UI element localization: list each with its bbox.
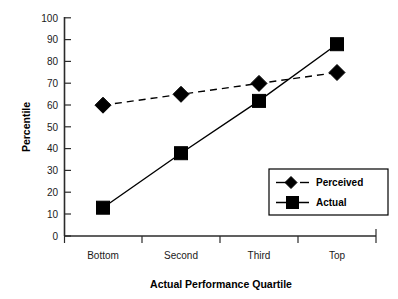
y-tick-label: 20 xyxy=(47,187,59,198)
x-tick-label-third: Third xyxy=(248,250,271,261)
data-point-actual-bottom xyxy=(97,201,110,214)
y-tick-label: 100 xyxy=(41,13,58,24)
y-tick-label: 60 xyxy=(47,100,59,111)
x-tick-label-second: Second xyxy=(164,250,198,261)
y-tick-label: 70 xyxy=(47,78,59,89)
y-tick-label: 90 xyxy=(47,34,59,45)
legend-label-actual: Actual xyxy=(316,197,347,208)
chart-legend: Perceived Actual xyxy=(269,169,388,215)
y-tick-label: 0 xyxy=(52,231,58,242)
data-point-actual-second xyxy=(175,147,188,160)
y-tick-label: 80 xyxy=(47,56,59,67)
chart-container: 100 90 80 70 60 50 40 30 20 10 0 Bottom … xyxy=(0,0,398,299)
line-chart: 100 90 80 70 60 50 40 30 20 10 0 Bottom … xyxy=(0,0,398,299)
y-tick-label: 50 xyxy=(47,122,59,133)
legend-entry-perceived: Perceived xyxy=(276,177,363,189)
x-tick-label-top: Top xyxy=(329,250,346,261)
legend-label-perceived: Perceived xyxy=(316,177,363,188)
y-axis-title: Percentile xyxy=(20,102,32,152)
data-point-actual-top xyxy=(331,38,344,51)
y-tick-label: 30 xyxy=(47,165,59,176)
x-axis-title: Actual Performance Quartile xyxy=(150,278,292,290)
y-tick-label: 40 xyxy=(47,143,59,154)
y-tick-label: 10 xyxy=(47,209,59,220)
x-tick-label-bottom: Bottom xyxy=(87,250,119,261)
data-point-actual-third xyxy=(253,94,266,107)
square-icon xyxy=(287,197,299,209)
